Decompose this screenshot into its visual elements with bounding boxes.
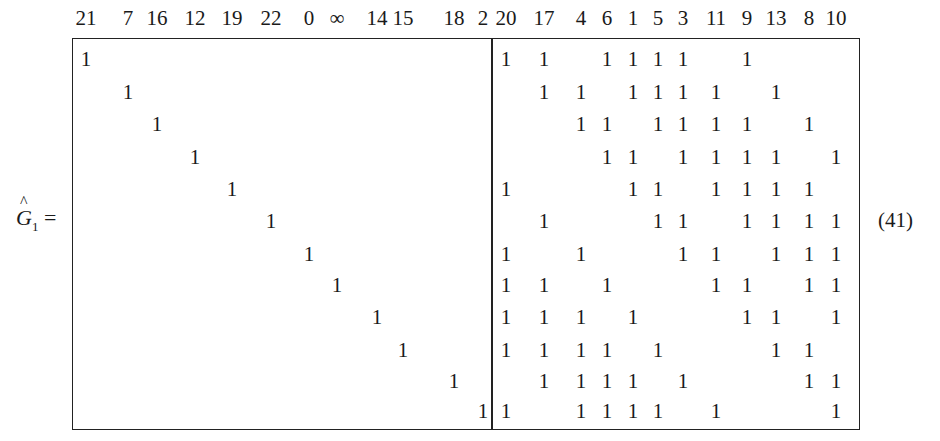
matrix-entry: 1 bbox=[711, 147, 722, 168]
matrix-entry: 1 bbox=[831, 147, 842, 168]
matrix-entry: 1 bbox=[771, 82, 782, 103]
matrix-entry: 1 bbox=[771, 340, 782, 361]
column-header: 4 bbox=[576, 6, 587, 31]
matrix-entry: 1 bbox=[653, 211, 664, 232]
matrix-entry: 1 bbox=[771, 147, 782, 168]
column-header: 12 bbox=[185, 6, 206, 31]
matrix-entry: 1 bbox=[501, 307, 512, 328]
matrix-entry: 1 bbox=[804, 114, 815, 135]
matrix-entry: 1 bbox=[678, 147, 689, 168]
matrix-entry: 1 bbox=[771, 179, 782, 200]
matrix-entry: 1 bbox=[711, 244, 722, 265]
matrix-entry: 1 bbox=[742, 179, 753, 200]
matrix-entry: 1 bbox=[678, 82, 689, 103]
column-header: ∞ bbox=[330, 6, 345, 31]
matrix-entry: 1 bbox=[576, 114, 587, 135]
matrix-entry: 1 bbox=[804, 371, 815, 392]
column-header: 3 bbox=[678, 6, 689, 31]
matrix-entry: 1 bbox=[711, 114, 722, 135]
equation-label: ^G1 = bbox=[16, 205, 56, 234]
column-header: 8 bbox=[804, 6, 815, 31]
matrix-entry: 1 bbox=[190, 147, 201, 168]
hat-accent: ^ bbox=[20, 193, 28, 211]
matrix-entry: 1 bbox=[478, 401, 489, 422]
matrix-entry: 1 bbox=[449, 371, 460, 392]
matrix-entry: 1 bbox=[771, 244, 782, 265]
matrix-entry: 1 bbox=[304, 244, 315, 265]
matrix-entry: 1 bbox=[372, 307, 383, 328]
matrix-entry: 1 bbox=[266, 211, 277, 232]
matrix-entry: 1 bbox=[711, 179, 722, 200]
matrix-entry: 1 bbox=[678, 244, 689, 265]
column-header: 15 bbox=[393, 6, 414, 31]
matrix-entry: 1 bbox=[628, 49, 639, 70]
matrix-entry: 1 bbox=[602, 114, 613, 135]
matrix-entry: 1 bbox=[539, 307, 550, 328]
matrix-entry: 1 bbox=[602, 401, 613, 422]
matrix-entry: 1 bbox=[539, 371, 550, 392]
matrix-entry: 1 bbox=[711, 401, 722, 422]
column-header: 16 bbox=[147, 6, 168, 31]
matrix-entry: 1 bbox=[804, 244, 815, 265]
matrix-entry: 1 bbox=[742, 49, 753, 70]
matrix-entry: 1 bbox=[742, 147, 753, 168]
matrix-entry: 1 bbox=[628, 82, 639, 103]
matrix-entry: 1 bbox=[539, 211, 550, 232]
matrix-entry: 1 bbox=[804, 211, 815, 232]
matrix-entry: 1 bbox=[628, 371, 639, 392]
matrix-entry: 1 bbox=[501, 275, 512, 296]
matrix-entry: 1 bbox=[123, 82, 134, 103]
matrix-entry: 1 bbox=[501, 401, 512, 422]
matrix-frame bbox=[72, 38, 860, 430]
matrix-entry: 1 bbox=[602, 49, 613, 70]
matrix-entry: 1 bbox=[602, 147, 613, 168]
column-header: 11 bbox=[706, 6, 726, 31]
matrix-entry: 1 bbox=[628, 147, 639, 168]
matrix-entry: 1 bbox=[804, 275, 815, 296]
matrix-entry: 1 bbox=[742, 307, 753, 328]
equals-sign: = bbox=[44, 205, 56, 230]
column-header: 1 bbox=[628, 6, 639, 31]
matrix-entry: 1 bbox=[831, 244, 842, 265]
matrix-entry: 1 bbox=[628, 401, 639, 422]
matrix-entry: 1 bbox=[576, 340, 587, 361]
column-header: 5 bbox=[653, 6, 664, 31]
matrix-entry: 1 bbox=[742, 275, 753, 296]
matrix-entry: 1 bbox=[501, 179, 512, 200]
equation-number: (41) bbox=[878, 208, 913, 233]
column-header: 19 bbox=[222, 6, 243, 31]
lhs-subscript: 1 bbox=[32, 219, 39, 234]
matrix-entry: 1 bbox=[831, 401, 842, 422]
matrix-entry: 1 bbox=[678, 114, 689, 135]
column-header: 6 bbox=[602, 6, 613, 31]
matrix-entry: 1 bbox=[501, 49, 512, 70]
matrix-entry: 1 bbox=[678, 371, 689, 392]
matrix-entry: 1 bbox=[653, 179, 664, 200]
matrix-entry: 1 bbox=[771, 211, 782, 232]
matrix-entry: 1 bbox=[576, 401, 587, 422]
matrix-entry: 1 bbox=[332, 275, 343, 296]
matrix-entry: 1 bbox=[539, 82, 550, 103]
column-header: 22 bbox=[261, 6, 282, 31]
matrix-entry: 1 bbox=[227, 179, 238, 200]
matrix-entry: 1 bbox=[576, 371, 587, 392]
matrix-entry: 1 bbox=[653, 82, 664, 103]
matrix-entry: 1 bbox=[576, 82, 587, 103]
matrix-entry: 1 bbox=[711, 82, 722, 103]
matrix-entry: 1 bbox=[711, 275, 722, 296]
matrix-entry: 1 bbox=[602, 275, 613, 296]
matrix-entry: 1 bbox=[539, 49, 550, 70]
column-header: 9 bbox=[742, 6, 753, 31]
matrix-entry: 1 bbox=[81, 49, 92, 70]
matrix-entry: 1 bbox=[742, 211, 753, 232]
matrix-entry: 1 bbox=[653, 401, 664, 422]
matrix-entry: 1 bbox=[539, 340, 550, 361]
matrix-entry: 1 bbox=[653, 114, 664, 135]
matrix-entry: 1 bbox=[804, 340, 815, 361]
matrix-entry: 1 bbox=[628, 179, 639, 200]
column-header: 2 bbox=[478, 6, 489, 31]
matrix-entry: 1 bbox=[653, 49, 664, 70]
column-header: 20 bbox=[496, 6, 517, 31]
matrix-entry: 1 bbox=[501, 244, 512, 265]
matrix-entry: 1 bbox=[831, 307, 842, 328]
